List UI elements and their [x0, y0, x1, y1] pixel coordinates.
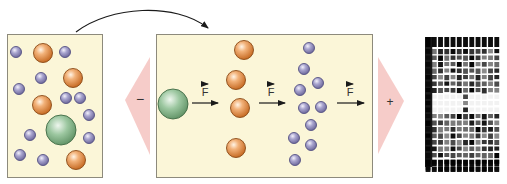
- gel-band: [457, 101, 462, 106]
- gel-band: [451, 153, 456, 158]
- small-molecule: [84, 133, 95, 144]
- gel-band: [482, 88, 487, 93]
- gel-band: [432, 167, 437, 172]
- small-molecule: [306, 120, 317, 131]
- force-label-3: F: [346, 84, 354, 98]
- gel-band: [457, 167, 462, 172]
- gel-band: [438, 82, 443, 86]
- gel-band: [494, 160, 499, 166]
- gel-band: [494, 75, 499, 79]
- gel-band: [488, 114, 493, 118]
- gel-band: [451, 167, 456, 172]
- small-molecule: [38, 155, 49, 166]
- gel-band: [432, 69, 437, 74]
- gel-band: [457, 95, 462, 99]
- gel-band: [463, 140, 468, 145]
- negative-electrode: −: [125, 57, 150, 155]
- gel-band: [494, 127, 499, 132]
- medium-molecule: [235, 41, 254, 60]
- gel-band: [432, 56, 437, 61]
- gel-band: [432, 88, 437, 93]
- gel-band: [482, 101, 487, 105]
- gel-band: [444, 153, 449, 157]
- gel-band: [482, 75, 487, 79]
- gel-band: [457, 37, 462, 47]
- gel-band: [438, 49, 443, 54]
- gel-band: [463, 160, 468, 166]
- gel-band: [463, 127, 468, 132]
- gel-band: [488, 69, 493, 74]
- gel-band: [494, 108, 499, 113]
- gel-band: [469, 147, 474, 152]
- gel-band: [444, 140, 449, 145]
- gel-band: [457, 69, 462, 74]
- gel-band: [432, 160, 437, 166]
- gel-band: [438, 88, 443, 93]
- small-molecule: [306, 140, 317, 151]
- gel-band: [482, 153, 487, 158]
- small-molecule: [11, 47, 22, 58]
- gel-band: [494, 140, 499, 145]
- gel-band: [444, 95, 449, 99]
- positive-label: +: [386, 95, 393, 109]
- small-molecule: [75, 93, 86, 104]
- gel-band: [463, 108, 468, 113]
- gel-band: [451, 82, 456, 86]
- medium-molecule: [227, 71, 246, 90]
- gel-band: [451, 108, 456, 113]
- gel-band: [476, 147, 481, 152]
- gel-band: [444, 167, 449, 172]
- medium-molecule: [227, 139, 246, 158]
- gel-band: [482, 160, 487, 166]
- gel-band: [457, 147, 462, 151]
- sample-panel: [8, 35, 103, 178]
- gel-band: [457, 108, 462, 113]
- gel-band: [444, 147, 449, 152]
- gel-band: [476, 95, 481, 100]
- gel-band: [488, 37, 493, 47]
- gel-band: [432, 95, 437, 99]
- gel-band: [451, 127, 456, 132]
- gel-band: [432, 75, 437, 79]
- large-molecule: [158, 89, 188, 119]
- gel-band: [488, 95, 493, 99]
- gel-band: [457, 121, 462, 126]
- small-molecule: [299, 64, 310, 75]
- gel-band: [494, 56, 499, 61]
- gel-band: [488, 134, 493, 139]
- gel-band: [476, 56, 481, 61]
- gel-band: [469, 101, 474, 105]
- gel-band: [469, 108, 474, 112]
- gel-band: [494, 95, 499, 99]
- medium-molecule: [67, 151, 86, 170]
- gel-band: [438, 95, 443, 100]
- gel-band: [457, 134, 462, 138]
- gel-band: [463, 121, 468, 126]
- gel-band: [425, 37, 432, 167]
- force-symbol: F: [202, 86, 209, 98]
- gel-band: [469, 140, 474, 145]
- gel-band: [457, 88, 462, 93]
- gel-band: [432, 37, 437, 47]
- medium-molecule: [33, 96, 52, 115]
- gel-band: [469, 62, 474, 67]
- gel-band: [494, 167, 499, 172]
- gel-band: [476, 160, 481, 166]
- large-molecule: [46, 115, 76, 145]
- gel-band: [444, 134, 449, 139]
- gel-band: [482, 108, 487, 112]
- gel-band: [494, 88, 499, 93]
- gel-band: [488, 62, 493, 66]
- gel-band: [469, 127, 474, 132]
- gel-band: [482, 147, 487, 152]
- gel-band: [476, 101, 481, 106]
- gel-band: [482, 121, 487, 126]
- small-molecule: [316, 102, 327, 113]
- gel-band: [494, 114, 499, 118]
- gel-band: [451, 114, 456, 119]
- gel-band: [432, 121, 437, 126]
- force-symbol: F: [347, 86, 354, 98]
- gel-band: [469, 69, 474, 73]
- gel-band: [463, 82, 468, 87]
- gel-band: [488, 167, 493, 172]
